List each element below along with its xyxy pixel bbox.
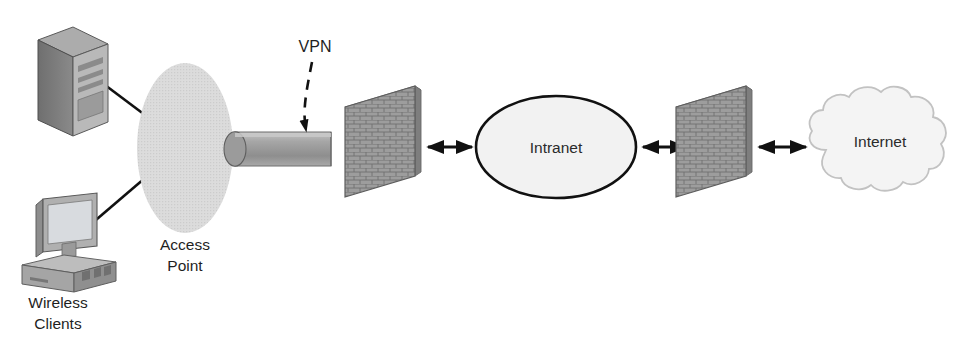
vpn-label: VPN [299, 38, 332, 55]
connector-vpn-callout-to-tunnel [305, 62, 312, 130]
access-point-caption-line2: Point [167, 257, 203, 274]
access-point-ellipse-icon [137, 63, 233, 233]
intranet-ellipse-icon: Intranet [476, 96, 636, 198]
intranet-label: Intranet [530, 139, 583, 156]
firewall-inner-brick-wall-icon [345, 86, 421, 197]
access-point-caption-line1: Access [160, 236, 210, 253]
wireless-clients-caption-line1: Wireless [28, 294, 88, 311]
internet-label: Internet [854, 133, 907, 150]
firewall-outer-brick-wall-icon [676, 86, 752, 197]
diagram-svg-canvas: Intranet Internet VPN Access Point Wirel… [0, 0, 977, 347]
desktop-computer-icon [22, 193, 116, 292]
wireless-clients-caption-line2: Clients [34, 315, 82, 332]
network-diagram: Intranet Internet VPN Access Point Wirel… [0, 0, 977, 347]
server-tower-icon [38, 27, 108, 136]
internet-cloud-icon: Internet [810, 87, 946, 191]
vpn-tunnel-cylinder-icon [224, 132, 331, 166]
vpn-dashed-arrow [305, 62, 312, 130]
